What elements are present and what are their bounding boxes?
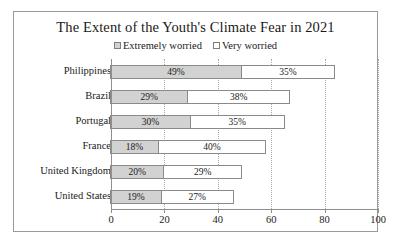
category-label: France [19, 140, 111, 151]
gridline [218, 59, 219, 209]
bar-segment-extremely-worried[interactable]: 30% [110, 115, 191, 129]
x-tick-label: 0 [108, 214, 113, 225]
x-tick-mark [325, 209, 326, 213]
bar-segment-very-worried[interactable]: 35% [241, 65, 335, 79]
bar-segment-very-worried[interactable]: 29% [163, 165, 241, 179]
gridline [325, 59, 326, 209]
bar-segment-very-worried[interactable]: 27% [161, 190, 234, 204]
gridline [164, 59, 165, 209]
bar-row[interactable]: 29%38% [111, 90, 290, 104]
x-tick-mark [218, 209, 219, 213]
x-tick-label: 40 [213, 214, 224, 225]
bar-segment-very-worried[interactable]: 35% [190, 115, 284, 129]
category-label: Portugal [19, 115, 111, 126]
x-axis-line [111, 209, 378, 210]
bar-segment-very-worried[interactable]: 38% [187, 90, 289, 104]
category-label: United States [19, 190, 111, 201]
bar-row[interactable]: 18%40% [111, 140, 266, 154]
legend-swatch-icon-very-worried [213, 42, 220, 49]
legend-item-very-worried[interactable]: Very worried [213, 40, 277, 51]
legend-label-very-worried: Very worried [222, 40, 277, 51]
plot-area: 49%35%29%38%30%35%18%40%20%29%19%27% [111, 59, 378, 209]
bar-segment-extremely-worried[interactable]: 18% [110, 140, 159, 154]
x-tick-mark [164, 209, 165, 213]
category-label: Brazil [19, 90, 111, 101]
gridline [378, 59, 379, 209]
legend-swatch-icon-extremely-worried [114, 42, 121, 49]
x-tick-label: 60 [266, 214, 277, 225]
category-label: United Kingdom [19, 165, 111, 176]
bar-segment-extremely-worried[interactable]: 29% [110, 90, 188, 104]
x-tick-label: 80 [319, 214, 330, 225]
legend-item-extremely-worried[interactable]: Extremely worried [114, 40, 202, 51]
bar-row[interactable]: 19%27% [111, 190, 234, 204]
bar-segment-extremely-worried[interactable]: 49% [110, 65, 242, 79]
x-tick-label: 100 [370, 214, 386, 225]
x-tick-mark [378, 209, 379, 213]
category-label: Philippines [19, 65, 111, 76]
legend-label-extremely-worried: Extremely worried [123, 40, 202, 51]
bar-segment-extremely-worried[interactable]: 19% [110, 190, 162, 204]
bar-row[interactable]: 20%29% [111, 165, 242, 179]
y-axis-line [111, 59, 112, 209]
chart-frame: The Extent of the Youth's Climate Fear i… [13, 11, 378, 232]
x-tick-mark [271, 209, 272, 213]
x-tick-label: 20 [159, 214, 170, 225]
bar-segment-very-worried[interactable]: 40% [158, 140, 266, 154]
bar-segment-extremely-worried[interactable]: 20% [110, 165, 164, 179]
category-axis-labels: PhilippinesBrazilPortugalFranceUnited Ki… [14, 59, 111, 209]
chart-legend: Extremely worried Very worried [14, 40, 377, 51]
bar-row[interactable]: 49%35% [111, 65, 335, 79]
bar-row[interactable]: 30%35% [111, 115, 285, 129]
gridline [271, 59, 272, 209]
x-tick-mark [111, 209, 112, 213]
chart-title: The Extent of the Youth's Climate Fear i… [14, 19, 377, 36]
plot-wrapper: PhilippinesBrazilPortugalFranceUnited Ki… [14, 57, 377, 231]
